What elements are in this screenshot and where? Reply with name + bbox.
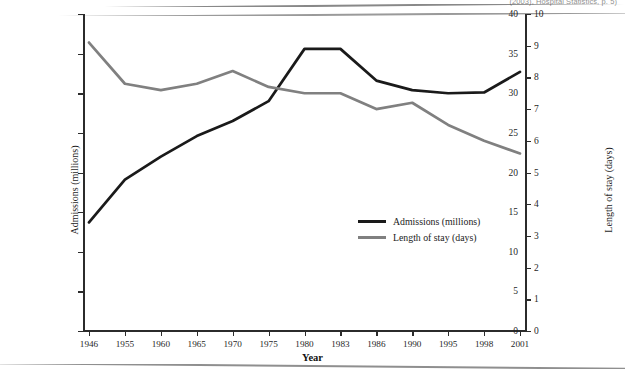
x-axis-tick [412,331,413,336]
x-axis-tick-label: 1946 [80,339,98,349]
x-axis-tick [161,331,162,336]
x-axis-tick [233,331,234,336]
x-axis-tick-label: 1975 [259,339,277,349]
y-axis-right-tick-label: 5 [534,168,539,178]
y-axis-left-tick-label: 20 [509,168,519,178]
chart-legend: Admissions (millions)Length of stay (day… [358,213,480,245]
x-axis-tick [89,331,90,336]
y-axis-right-tick [526,46,531,47]
y-axis-left-tick-label: 30 [509,88,519,98]
y-axis-left-tick-label: 5 [513,286,518,296]
y-axis-right-tick-label: 7 [534,104,539,114]
plot-area: 0510152025303540 012345678910 1946195519… [83,14,526,331]
y-axis-left-tick-label: 35 [509,49,519,59]
y-axis-right-tick [526,173,531,174]
x-axis-tick [448,331,449,336]
y-axis-right-tick-label: 9 [534,41,539,51]
y-axis-right-tick-label: 1 [534,294,539,304]
y-axis-left-tick [78,173,83,174]
x-axis-tick-label: 1965 [188,339,206,349]
y-axis-left-tick-label: 15 [509,207,519,217]
y-axis-right-tick [526,299,531,300]
legend-swatch-icon [358,220,386,223]
x-axis-tick-label: 1998 [475,339,493,349]
x-axis-tick [197,331,198,336]
y-axis-left-tick [78,212,83,213]
x-axis-tick-label: 1960 [152,339,170,349]
x-axis-tick-label: 1986 [367,339,385,349]
series-lines [83,14,526,331]
y-axis-left-tick [78,14,83,15]
line-length-of-stay [89,43,520,154]
figure-chart-hospital-admissions: (2003), Hospital Statistics, p. 5) Admis… [0,0,625,379]
y-axis-right-tick-label: 6 [534,136,539,146]
y-axis-left-tick [78,252,83,253]
y-axis-right-tick [526,77,531,78]
y-axis-left-tick [78,331,83,332]
y-axis-right-tick [526,14,531,15]
y-axis-left-tick [78,133,83,134]
legend-item[interactable]: Length of stay (days) [358,229,480,245]
line-admissions [89,49,520,223]
x-axis-tick [376,331,377,336]
legend-label: Length of stay (days) [393,232,477,243]
x-axis-tick-label: 1955 [116,339,134,349]
x-axis-tick [484,331,485,336]
x-axis-tick-label: 2001 [511,339,529,349]
x-axis-tick-label: 1980 [295,339,313,349]
y-axis-right-tick-label: 8 [534,72,539,82]
x-axis-tick [340,331,341,336]
y-axis-left-tick-label: 40 [509,9,519,19]
y-axis-right-tick-label: 10 [534,9,544,19]
x-axis-tick-label: 1990 [403,339,421,349]
y-axis-right-tick-label: 2 [534,263,539,273]
legend-label: Admissions (millions) [393,216,480,227]
x-axis-tick-label: 1995 [439,339,457,349]
y-axis-right-label: Length of stay (days) [603,147,614,232]
y-axis-left-tick [78,291,83,292]
y-axis-right-tick-label: 3 [534,231,539,241]
x-axis-tick [125,331,126,336]
y-axis-right-tick-label: 0 [534,326,539,336]
y-axis-left-label: Admissions (millions) [69,145,80,234]
x-axis-tick [269,331,270,336]
y-axis-left-tick-label: 10 [509,247,519,257]
y-axis-left-tick [78,93,83,94]
y-axis-right-tick-label: 4 [534,199,539,209]
x-axis-label: Year [0,352,625,363]
y-axis-right-tick [526,268,531,269]
y-axis-left-tick-label: 0 [513,326,518,336]
scan-rule-bottom [0,364,625,369]
x-axis-tick-label: 1970 [223,339,241,349]
x-axis-tick [520,331,521,336]
y-axis-left-tick [78,54,83,55]
y-axis-left-tick-label: 25 [509,128,519,138]
legend-swatch-icon [358,236,386,239]
legend-item[interactable]: Admissions (millions) [358,213,480,229]
source-citation: (2003), Hospital Statistics, p. 5) [509,0,617,6]
x-axis-tick [305,331,306,336]
y-axis-right-tick [526,109,531,110]
y-axis-right-tick [526,204,531,205]
y-axis-right-tick [526,236,531,237]
y-axis-right-tick [526,141,531,142]
x-axis-tick-label: 1983 [331,339,349,349]
y-axis-right-tick [526,331,531,332]
